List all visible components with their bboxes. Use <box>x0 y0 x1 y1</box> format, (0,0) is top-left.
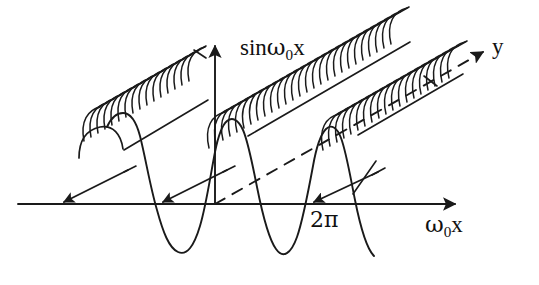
projection-arrow-3 <box>314 172 378 202</box>
ridge-left-front-profile <box>79 127 123 158</box>
ridge-left-top-edge <box>97 46 206 108</box>
horizontal-axis-label-greek: ω <box>425 211 444 237</box>
projection-arrow-1 <box>64 170 128 202</box>
depth-axis-line <box>215 52 483 204</box>
projection-guide-2 <box>223 166 235 172</box>
figure-root: sinω0x ω0x y 2π <box>0 0 539 285</box>
vertical-axis-label-prefix: sin <box>240 35 267 60</box>
projection-guide-1 <box>124 166 136 172</box>
vertical-axis-label-greek: ω <box>267 34 286 60</box>
ridge-right-back-silhouette <box>358 74 463 135</box>
vertical-axis-label-suffix: x <box>293 35 305 60</box>
projection-guide-3 <box>372 168 385 175</box>
ridge-left-edge-tick <box>194 50 206 58</box>
x-tick-label-2pi: 2π <box>310 209 338 231</box>
horizontal-axis-label-suffix: x <box>451 212 463 237</box>
ridge-middle-ribs <box>207 8 407 148</box>
projection-arrow-2 <box>163 170 227 202</box>
horizontal-axis-label: ω0x <box>425 213 463 239</box>
vertical-axis-label: sinω0x <box>240 36 305 62</box>
sine-curve-foreground <box>107 113 374 256</box>
ridge-right-ribs <box>321 42 465 150</box>
ridge-right-top-edge <box>336 41 467 115</box>
ridge-right-cross-tick <box>353 161 376 194</box>
depth-axis-label: y <box>492 35 504 58</box>
